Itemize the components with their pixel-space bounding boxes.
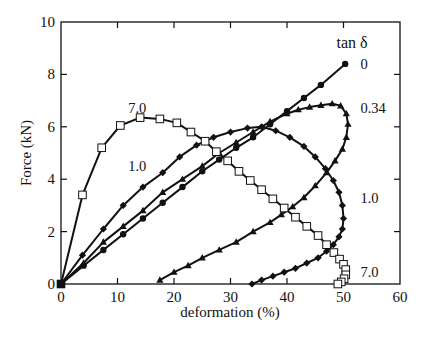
y-tick-label: 2	[48, 224, 56, 240]
square-marker	[98, 144, 106, 152]
x-tick-label: 0	[57, 289, 65, 305]
diamond-marker	[339, 202, 346, 209]
circle-marker	[318, 82, 324, 88]
legend-title: tan δ	[336, 34, 367, 51]
series-label: 0.34	[360, 100, 386, 116]
origin-marker	[57, 280, 65, 288]
square-marker	[224, 157, 232, 165]
circle-marker	[160, 200, 166, 206]
circle-marker	[120, 231, 126, 237]
diamond-marker	[281, 269, 288, 276]
x-tick-label: 30	[223, 289, 238, 305]
series-line	[61, 104, 348, 284]
circle-marker	[179, 184, 185, 190]
square-marker	[173, 119, 181, 127]
diamond-marker	[210, 134, 217, 141]
x-tick-label: 10	[110, 289, 125, 305]
series-label: 0	[360, 56, 367, 72]
diamond-marker	[244, 125, 251, 132]
circle-marker	[250, 134, 256, 140]
curve-annotation: 7.0	[128, 100, 146, 116]
diamond-marker	[269, 273, 276, 280]
series-label: 1.0	[360, 190, 378, 206]
diamond-marker	[335, 189, 342, 196]
circle-marker	[342, 61, 348, 67]
square-marker	[201, 137, 209, 145]
y-tick-label: 0	[48, 276, 56, 292]
diamond-marker	[258, 276, 265, 283]
circle-marker	[100, 247, 106, 253]
x-tick-label: 40	[280, 289, 295, 305]
x-tick-label: 60	[393, 289, 408, 305]
diamond-marker	[292, 265, 299, 272]
square-marker	[303, 223, 311, 231]
square-marker	[187, 128, 195, 136]
diamond-marker	[248, 280, 255, 287]
square-marker	[235, 168, 243, 176]
diamond-marker	[339, 225, 346, 232]
triangle-marker	[343, 133, 350, 139]
series-0	[57, 61, 348, 288]
y-tick-label: 6	[48, 119, 56, 135]
x-tick-label: 20	[167, 289, 182, 305]
diamond-marker	[227, 128, 234, 135]
series-0-34	[57, 100, 352, 288]
square-marker	[156, 115, 164, 123]
circle-marker	[233, 145, 239, 151]
square-marker	[314, 232, 322, 240]
square-marker	[323, 241, 331, 249]
circle-marker	[216, 156, 222, 162]
diamond-marker	[303, 259, 310, 266]
square-marker	[246, 177, 254, 185]
y-tick-label: 4	[48, 171, 56, 187]
circle-marker	[199, 168, 205, 174]
curve-annotation: 1.0	[128, 158, 146, 174]
triangle-marker	[339, 145, 346, 151]
square-marker	[213, 148, 221, 156]
triangle-marker	[344, 120, 351, 126]
series-label: 7.0	[360, 264, 378, 280]
square-marker	[258, 186, 266, 194]
square-marker	[117, 122, 125, 130]
x-axis-title: deformation (%)	[180, 304, 280, 321]
y-axis-title: Force (kN)	[18, 120, 35, 186]
circle-marker	[301, 95, 307, 101]
square-marker	[292, 213, 300, 221]
circle-marker	[140, 215, 146, 221]
square-marker	[280, 204, 288, 212]
y-tick-label: 10	[40, 14, 55, 30]
square-marker	[79, 191, 87, 199]
series-layer	[57, 61, 352, 288]
diamond-marker	[340, 215, 347, 222]
force-deformation-chart: 01020304050600246810 00.341.07.07.01.0 d…	[0, 0, 425, 337]
x-tick-label: 50	[336, 289, 351, 305]
square-marker	[334, 280, 342, 288]
square-marker	[269, 195, 277, 203]
diamond-marker	[272, 127, 279, 134]
y-tick-label: 8	[48, 66, 56, 82]
